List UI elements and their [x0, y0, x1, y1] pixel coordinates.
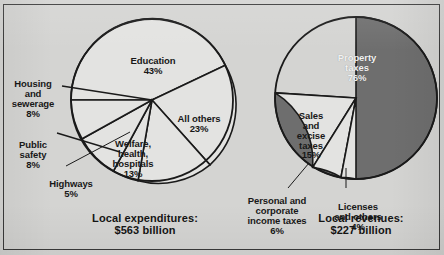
label-welfare-percent: 13%	[105, 169, 161, 179]
label-housing-name: Housing and sewerage	[12, 78, 55, 109]
label-property-taxes-percent: 76%	[322, 73, 392, 83]
label-welfare-name: Welfare, health, hospitals	[113, 138, 154, 169]
label-public-safety: Public safety 8%	[6, 130, 60, 179]
left-caption-line1: Local expenditures:	[92, 212, 198, 224]
label-public-safety-name: Public safety	[19, 139, 47, 160]
label-public-safety-percent: 8%	[6, 160, 60, 170]
label-sales-excise-name: Sales and excise taxes	[297, 110, 325, 151]
figure-panel: Education 43% All others 23% Welfare, he…	[0, 0, 444, 255]
label-housing: Housing and sewerage 8%	[2, 69, 64, 128]
label-all-others: All others 23%	[168, 104, 230, 144]
right-chart-caption: Local revenues: $227 billion	[286, 212, 436, 237]
label-property-taxes-name: Property taxes	[338, 52, 376, 73]
label-all-others-percent: 23%	[168, 124, 230, 134]
label-highways-percent: 5%	[33, 189, 109, 199]
label-sales-excise: Sales and excise taxes 15%	[286, 101, 336, 170]
right-caption-line1: Local revenues:	[318, 212, 403, 224]
label-housing-percent: 8%	[2, 109, 64, 119]
label-property-taxes: Property taxes 76%	[322, 43, 392, 92]
label-education: Education 43%	[110, 46, 196, 86]
left-caption-line2: $563 billion	[114, 224, 175, 236]
label-sales-excise-percent: 15%	[286, 150, 336, 160]
label-welfare: Welfare, health, hospitals 13%	[105, 129, 161, 188]
label-education-percent: 43%	[110, 66, 196, 76]
left-chart-caption: Local expenditures: $563 billion	[62, 212, 228, 237]
right-caption-line2: $227 billion	[330, 224, 391, 236]
